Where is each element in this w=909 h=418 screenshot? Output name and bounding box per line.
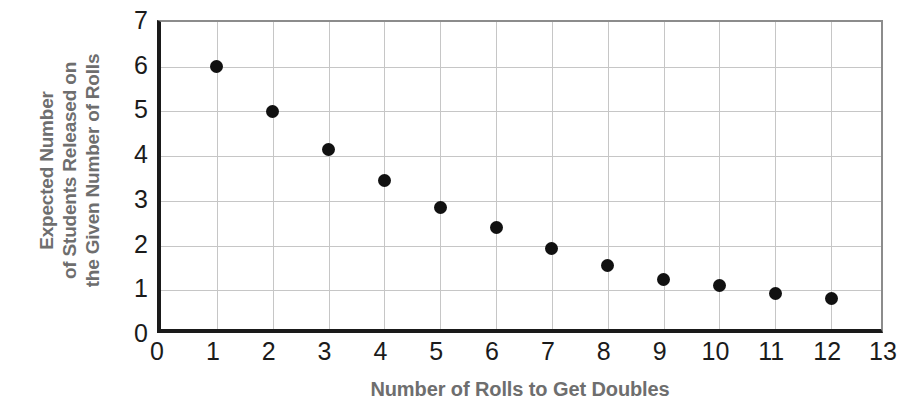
- x-tick-label: 3: [303, 338, 347, 366]
- x-tick-label: 12: [805, 338, 849, 366]
- gridline-horizontal: [161, 156, 881, 157]
- gridline-vertical: [831, 22, 832, 329]
- y-tick-label: 7: [118, 8, 148, 33]
- data-point: [657, 273, 670, 286]
- data-point: [825, 292, 838, 305]
- gridline-vertical: [496, 22, 497, 329]
- data-point: [322, 143, 335, 156]
- y-tick-label: 4: [118, 142, 148, 167]
- y-tick-label: 1: [118, 276, 148, 301]
- y-tick-label: 3: [118, 186, 148, 211]
- x-tick-label: 4: [358, 338, 402, 366]
- data-point: [490, 221, 503, 234]
- x-tick-label: 10: [693, 338, 737, 366]
- x-tick-label: 2: [247, 338, 291, 366]
- x-tick-label: 0: [135, 338, 179, 366]
- y-axis-title-line-1: Expected Number: [36, 53, 59, 287]
- x-tick-label: 13: [861, 338, 905, 366]
- y-axis-title-line-3: the Given Number of Rolls: [82, 53, 105, 287]
- x-tick-label: 8: [582, 338, 626, 366]
- gridline-vertical: [775, 22, 776, 329]
- gridline-horizontal: [161, 246, 881, 247]
- y-axis-title-line-2: of Students Released on: [59, 53, 82, 287]
- x-tick-label: 6: [470, 338, 514, 366]
- y-tick-label: 5: [118, 97, 148, 122]
- scatter-chart: Expected Number of Students Released on …: [0, 0, 909, 418]
- gridline-vertical: [329, 22, 330, 329]
- x-tick-label: 5: [414, 338, 458, 366]
- x-tick-label: 1: [191, 338, 235, 366]
- x-axis-title: Number of Rolls to Get Doubles: [157, 378, 883, 401]
- gridline-vertical: [273, 22, 274, 329]
- gridline-horizontal: [161, 201, 881, 202]
- x-axis-tick-labels: 012345678910111213: [0, 338, 909, 372]
- data-point: [434, 201, 447, 214]
- gridline-vertical: [608, 22, 609, 329]
- x-tick-label: 7: [526, 338, 570, 366]
- grid: [161, 22, 881, 329]
- y-tick-label: 6: [118, 52, 148, 77]
- gridline-horizontal: [161, 67, 881, 68]
- gridline-vertical: [440, 22, 441, 329]
- data-point: [769, 287, 782, 300]
- gridline-vertical: [552, 22, 553, 329]
- x-tick-label: 9: [638, 338, 682, 366]
- x-tick-label: 11: [749, 338, 793, 366]
- y-tick-label: 2: [118, 231, 148, 256]
- plot-area: [157, 20, 883, 333]
